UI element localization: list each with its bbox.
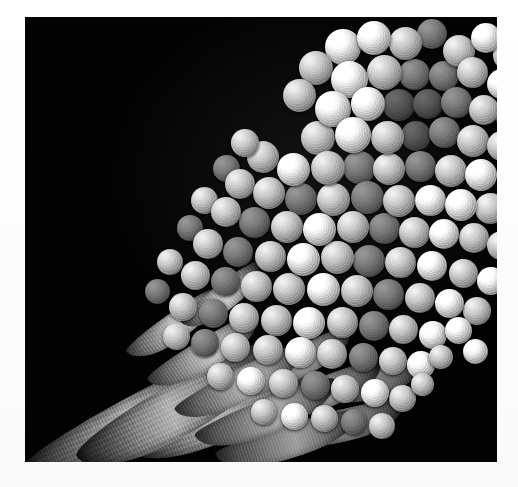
- conidium: [429, 117, 460, 148]
- conidium: [181, 261, 210, 290]
- conidium: [399, 217, 430, 248]
- conidium: [411, 373, 434, 396]
- conidium: [229, 303, 259, 333]
- conidium: [385, 247, 416, 278]
- conidium: [221, 333, 250, 362]
- conidium: [225, 169, 255, 199]
- conidium: [343, 151, 376, 184]
- conidium: [283, 79, 316, 112]
- conidium: [373, 279, 404, 310]
- conidium: [417, 251, 447, 281]
- conidium: [311, 405, 338, 432]
- conidium: [253, 335, 283, 365]
- conidium: [157, 249, 183, 275]
- conidium: [357, 21, 391, 55]
- conidium: [463, 339, 488, 364]
- conidium: [251, 399, 277, 425]
- conidium: [239, 207, 270, 238]
- conidium: [449, 259, 478, 288]
- conidium: [457, 125, 489, 157]
- conidium: [327, 307, 358, 338]
- conidium: [285, 183, 317, 215]
- conidium: [373, 153, 405, 185]
- conidium: [441, 87, 472, 118]
- conidium: [351, 87, 385, 121]
- conidium: [405, 151, 436, 182]
- conidium: [399, 59, 430, 90]
- conidium: [369, 213, 400, 244]
- conidium: [145, 279, 170, 304]
- conidium: [429, 219, 459, 249]
- conidium: [269, 369, 298, 398]
- conidium: [163, 323, 190, 350]
- conidium: [457, 57, 488, 88]
- conidium: [359, 311, 389, 341]
- conidium: [277, 153, 310, 186]
- conidium: [191, 329, 219, 357]
- conidium: [335, 117, 371, 153]
- conidium: [367, 55, 402, 90]
- conidium: [429, 345, 453, 369]
- conidium: [271, 211, 303, 243]
- conidium: [223, 237, 253, 267]
- conidium: [317, 183, 350, 216]
- conidium: [369, 413, 395, 439]
- conidium: [199, 299, 228, 328]
- conidium: [469, 95, 497, 125]
- conidium: [371, 121, 404, 154]
- conidium: [341, 409, 367, 435]
- conidium: [331, 375, 359, 403]
- conidium: [459, 223, 489, 253]
- conidium: [303, 213, 336, 246]
- micrograph-canvas: [25, 17, 497, 462]
- conidium: [383, 185, 415, 217]
- conidium: [285, 337, 316, 368]
- conidium: [401, 121, 431, 151]
- figure-alt-text: Scanning electron micrograph of a fungal…: [0, 0, 1, 1]
- conidium: [261, 305, 292, 336]
- conidium: [465, 159, 497, 191]
- conidium: [341, 275, 373, 307]
- conidium: [311, 151, 345, 185]
- conidium: [435, 155, 467, 187]
- conidium: [351, 181, 384, 214]
- conidium: [301, 371, 330, 400]
- micrograph-plate: [25, 17, 497, 462]
- conidium: [193, 229, 223, 259]
- conidium: [405, 283, 435, 313]
- conidium: [383, 89, 415, 121]
- conidium: [389, 27, 422, 60]
- conidium: [435, 289, 464, 318]
- conidium: [253, 177, 285, 209]
- conidium: [321, 241, 354, 274]
- conidium: [353, 245, 385, 277]
- conidium: [471, 23, 497, 53]
- conidium: [389, 315, 418, 344]
- conidium: [379, 347, 407, 375]
- conidium: [337, 211, 369, 243]
- conidium: [255, 241, 286, 272]
- conidium: [475, 193, 497, 224]
- conidium: [169, 293, 197, 321]
- conidium: [211, 197, 241, 227]
- conidium: [237, 367, 265, 395]
- conidium: [281, 403, 308, 430]
- conidium: [477, 267, 497, 295]
- conidium: [207, 363, 234, 390]
- conidium: [415, 185, 446, 216]
- conidium: [361, 379, 389, 407]
- conidium: [307, 273, 340, 306]
- conidium: [487, 131, 497, 161]
- conidium: [445, 189, 477, 221]
- conidium: [211, 267, 240, 296]
- conidium: [293, 307, 325, 339]
- conidium: [231, 129, 259, 157]
- micrograph-page: Scanning electron micrograph of a fungal…: [0, 0, 518, 487]
- conidium: [487, 69, 497, 99]
- conidium: [317, 339, 347, 369]
- conidium: [273, 273, 305, 305]
- conidium: [413, 89, 443, 119]
- conidium: [349, 343, 378, 372]
- conidium: [241, 271, 272, 302]
- conidium: [287, 243, 320, 276]
